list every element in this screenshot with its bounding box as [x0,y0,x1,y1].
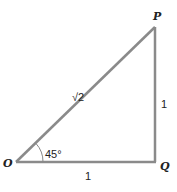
base-side-label: 1 [85,170,91,182]
triangle [16,27,156,162]
angle-label: 45° [45,148,62,160]
angle-arc [36,144,43,163]
triangle-diagram: P Q O √2 1 1 45° [0,0,177,192]
vertex-label-o: O [3,157,13,170]
hypotenuse-label: √2 [72,91,84,103]
vertex-label-q: Q [160,160,170,173]
vertex-label-p: P [152,10,162,23]
vertical-side-label: 1 [161,98,167,110]
hypotenuse-op [16,27,155,162]
